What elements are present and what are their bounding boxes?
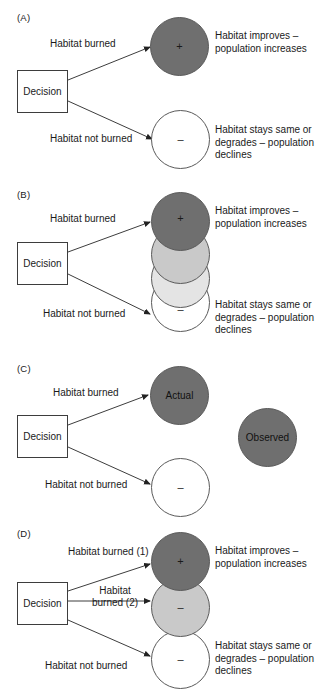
- edge-label-habitat-burned-2: Habitat burned (2): [84, 585, 146, 609]
- edge-label-habitat-burned-1: Habitat burned (1): [68, 546, 149, 557]
- plus-symbol: +: [177, 213, 183, 224]
- plus-symbol: +: [177, 556, 183, 567]
- panel-d: (D) Decision Habitat burned (1) Habitat …: [0, 520, 333, 698]
- outcome-text-improves: Habitat improves – population increases: [215, 545, 333, 570]
- circle-outcome-negative[interactable]: –: [151, 630, 210, 689]
- circle-outcome-actual[interactable]: Actual: [150, 366, 209, 425]
- edge-label-habitat-not-burned: Habitat not burned: [45, 479, 127, 490]
- outcome-text-improves: Habitat improves – population increases: [215, 205, 333, 230]
- circle-outcome-observed[interactable]: Observed: [238, 408, 297, 467]
- decision-node[interactable]: Decision: [17, 415, 68, 458]
- outcome-text-degrades: Habitat stays same or degrades – populat…: [215, 299, 333, 337]
- decision-node[interactable]: Decision: [17, 582, 68, 625]
- panel-a: (A) Decision Habitat burned Habitat not …: [0, 0, 333, 180]
- plus-symbol: +: [176, 41, 182, 52]
- edge-label-habitat-burned: Habitat burned: [50, 38, 116, 49]
- circle-outcome-negative[interactable]: –: [151, 110, 210, 169]
- actual-label: Actual: [166, 390, 194, 401]
- circle-outcome-positive[interactable]: +: [151, 192, 210, 251]
- edge-label-habitat-burned: Habitat burned: [53, 387, 119, 398]
- observed-label: Observed: [246, 432, 289, 443]
- circle-outcome-positive[interactable]: +: [151, 532, 210, 591]
- decision-node[interactable]: Decision: [17, 242, 68, 285]
- edge-label-habitat-not-burned: Habitat not burned: [50, 133, 132, 144]
- minus-symbol: –: [177, 654, 183, 665]
- outcome-text-degrades: Habitat stays same or degrades – populat…: [215, 124, 333, 162]
- edge-label-habitat-not-burned: Habitat not burned: [45, 660, 127, 671]
- decision-node[interactable]: Decision: [17, 70, 68, 113]
- edge-label-habitat-not-burned: Habitat not burned: [43, 308, 125, 319]
- edge-label-habitat-burned: Habitat burned: [50, 213, 116, 224]
- outcome-text-degrades: Habitat stays same or degrades – populat…: [215, 640, 333, 678]
- minus-symbol: –: [177, 602, 183, 613]
- circle-outcome-negative[interactable]: –: [151, 458, 210, 517]
- minus-symbol: –: [177, 482, 183, 493]
- panel-c: (C) Decision Habitat burned Habitat not …: [0, 355, 333, 520]
- outcome-text-improves: Habitat improves – population increases: [215, 30, 333, 55]
- panel-b: (B) Decision Habitat burned Habitat not …: [0, 180, 333, 355]
- minus-symbol: –: [177, 134, 183, 145]
- circle-outcome-positive[interactable]: +: [150, 17, 209, 76]
